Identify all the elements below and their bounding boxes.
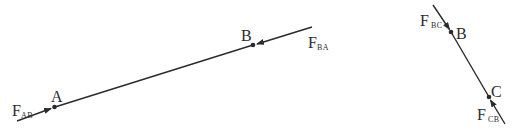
point-b-right <box>449 30 454 35</box>
point-a <box>52 105 57 110</box>
member-line-ab <box>55 45 253 107</box>
member-bc: B C FBC FCB <box>420 5 505 124</box>
force-label-fab: FAB <box>12 102 33 120</box>
force-label-fba: FBA <box>308 34 329 52</box>
point-a-label: A <box>51 88 63 105</box>
force-arrow-fba <box>257 27 312 44</box>
force-diagram: A B FAB FBA B C FBC FCB <box>0 0 515 133</box>
point-c-label: C <box>491 83 502 100</box>
point-b-right-label: B <box>456 25 467 42</box>
point-b-left-label: B <box>241 27 252 44</box>
member-ab: A B FAB FBA <box>12 27 329 121</box>
